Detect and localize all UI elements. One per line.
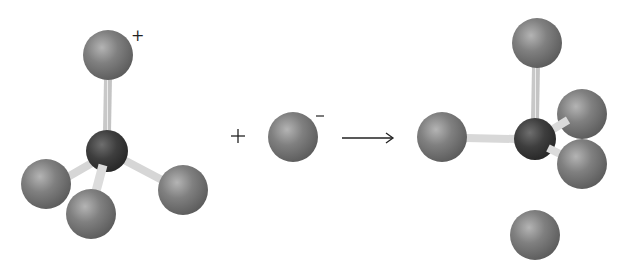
product-atom-back-right: [557, 89, 607, 139]
bond-left: [66, 163, 92, 178]
product-central-atom: [514, 118, 556, 160]
cation-molecule: +: [21, 26, 208, 239]
cation-atom-top: [83, 30, 133, 80]
product-molecule: [417, 18, 607, 260]
product-atom-left: [417, 112, 467, 162]
reaction-arrow-icon: [342, 133, 393, 143]
bond-top: [107, 78, 108, 132]
plus-operator: [231, 129, 245, 143]
cation-charge: +: [131, 26, 144, 45]
anion: [268, 112, 324, 162]
cation-atom-left: [21, 159, 71, 209]
cation-atom-right: [158, 165, 208, 215]
cation-atom-front: [66, 189, 116, 239]
bond-right: [124, 160, 162, 180]
reaction-diagram: +: [0, 0, 627, 270]
bond-equatorial-left: [466, 138, 516, 139]
cation-central-atom: [86, 130, 128, 172]
product-atom-front-right: [557, 139, 607, 189]
product-atom-bottom: [510, 210, 560, 260]
bond-axial-top: [535, 66, 536, 120]
anion-atom: [268, 112, 318, 162]
product-atom-top: [512, 18, 562, 68]
